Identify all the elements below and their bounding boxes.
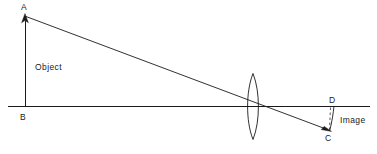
label-image: Image (340, 116, 366, 125)
label-point-b: B (20, 113, 26, 122)
label-point-a: A (21, 3, 27, 12)
optics-ray-diagram: A B C D Object Image (0, 0, 377, 154)
label-point-c: C (325, 134, 331, 143)
label-object: Object (35, 63, 62, 72)
label-point-d: D (329, 96, 335, 105)
principal-ray (26, 17, 326, 130)
diagram-canvas (0, 0, 377, 154)
